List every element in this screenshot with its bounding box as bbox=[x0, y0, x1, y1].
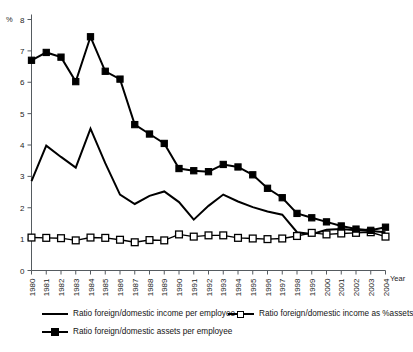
data-point-marker bbox=[87, 34, 93, 40]
x-tick-label: 2001 bbox=[337, 278, 346, 296]
y-tick-label: 0 bbox=[20, 267, 25, 276]
series-line bbox=[32, 37, 386, 231]
data-point-marker bbox=[176, 165, 182, 171]
data-point-marker bbox=[323, 231, 330, 238]
x-tick-label: 1983 bbox=[72, 278, 81, 296]
data-point-marker bbox=[220, 232, 227, 239]
x-tick-label: 2002 bbox=[352, 278, 361, 296]
x-tick-label: 1986 bbox=[116, 278, 125, 296]
data-point-marker bbox=[294, 233, 301, 240]
series-3 bbox=[28, 34, 388, 234]
x-tick-label: 1990 bbox=[175, 278, 184, 296]
data-point-marker bbox=[176, 231, 183, 238]
data-point-marker bbox=[132, 122, 138, 128]
data-point-marker bbox=[353, 226, 359, 232]
data-point-marker bbox=[87, 234, 94, 241]
data-point-marker bbox=[58, 235, 65, 242]
y-axis-unit-label: % bbox=[6, 15, 13, 24]
series-2 bbox=[28, 229, 389, 246]
data-point-marker bbox=[250, 172, 256, 178]
y-tick-label: 7 bbox=[20, 47, 25, 56]
x-tick-label: 1995 bbox=[249, 278, 258, 296]
x-tick-label: 1993 bbox=[219, 278, 228, 296]
data-point-marker bbox=[249, 235, 256, 242]
data-point-marker bbox=[264, 236, 271, 243]
chart-legend: Ratio foreign/domestic income per employ… bbox=[0, 304, 412, 352]
data-point-marker bbox=[323, 219, 329, 225]
legend-item-income-per-employee: Ratio foreign/domestic income per employ… bbox=[42, 308, 235, 320]
data-point-marker bbox=[146, 237, 153, 244]
series-line bbox=[32, 129, 386, 234]
x-tick-label: 1987 bbox=[131, 278, 140, 296]
legend-label-income-as-pct-assets: Ratio foreign/domestic income as %assets bbox=[259, 310, 413, 318]
data-point-marker bbox=[43, 234, 50, 241]
data-point-marker bbox=[28, 57, 34, 63]
x-tick-label: 1996 bbox=[264, 278, 273, 296]
legend-label-assets-per-employee: Ratio foreign/domestic assets per employ… bbox=[73, 328, 232, 336]
data-point-marker bbox=[28, 234, 35, 241]
legend-swatch-line-icon bbox=[42, 308, 68, 320]
data-point-marker bbox=[235, 164, 241, 170]
data-point-marker bbox=[131, 239, 138, 246]
data-point-marker bbox=[102, 68, 108, 74]
data-point-marker bbox=[264, 185, 270, 191]
x-tick-label: 1989 bbox=[160, 278, 169, 296]
data-point-marker bbox=[279, 195, 285, 201]
data-point-marker bbox=[309, 215, 315, 221]
legend-swatch-filled-square-icon bbox=[42, 326, 68, 338]
data-point-marker bbox=[382, 233, 389, 240]
data-point-marker bbox=[161, 140, 167, 146]
data-point-marker bbox=[117, 236, 124, 243]
x-tick-label: 1984 bbox=[87, 278, 96, 296]
series-layer bbox=[28, 34, 389, 246]
x-tick-label: 1988 bbox=[146, 278, 155, 296]
data-point-marker bbox=[368, 227, 374, 233]
data-point-marker bbox=[294, 210, 300, 216]
data-point-marker bbox=[308, 229, 315, 236]
x-tick-label: 1982 bbox=[57, 278, 66, 296]
data-point-marker bbox=[220, 161, 226, 167]
legend-label-income-per-employee: Ratio foreign/domestic income per employ… bbox=[73, 310, 235, 318]
data-point-marker bbox=[382, 224, 388, 230]
data-point-marker bbox=[338, 230, 345, 237]
legend-item-income-as-pct-assets: Ratio foreign/domestic income as %assets bbox=[228, 308, 413, 320]
y-tick-label: 3 bbox=[20, 172, 25, 181]
data-point-marker bbox=[235, 234, 242, 241]
x-tick-label: 1997 bbox=[278, 278, 287, 296]
x-tick-label: 1992 bbox=[205, 278, 214, 296]
data-point-marker bbox=[161, 237, 168, 244]
x-tick-label: 1999 bbox=[308, 278, 317, 296]
x-tick-label: 1985 bbox=[101, 278, 110, 296]
data-point-marker bbox=[117, 76, 123, 82]
series-1 bbox=[32, 129, 386, 234]
data-point-marker bbox=[72, 237, 79, 244]
y-tick-label: 2 bbox=[20, 204, 25, 213]
y-tick-label: 8 bbox=[20, 16, 25, 25]
data-point-marker bbox=[338, 223, 344, 229]
data-point-marker bbox=[205, 169, 211, 175]
data-point-marker bbox=[205, 232, 212, 239]
data-point-marker bbox=[146, 131, 152, 137]
x-tick-label: 2000 bbox=[323, 278, 332, 296]
x-tick-label: 1980 bbox=[28, 278, 37, 296]
y-tick-label: 6 bbox=[20, 78, 25, 87]
data-point-marker bbox=[73, 79, 79, 85]
legend-item-assets-per-employee: Ratio foreign/domestic assets per employ… bbox=[42, 326, 232, 338]
y-tick-label: 1 bbox=[20, 235, 25, 244]
y-tick-label: 5 bbox=[20, 110, 25, 119]
data-point-marker bbox=[279, 235, 286, 242]
data-point-marker bbox=[191, 168, 197, 174]
x-tick-label: 1994 bbox=[234, 278, 243, 296]
x-tick-label: 2003 bbox=[367, 278, 376, 296]
legend-swatch-open-square-icon bbox=[228, 308, 254, 320]
x-axis-title: Year bbox=[390, 274, 406, 283]
x-tick-label: 1981 bbox=[42, 278, 51, 296]
data-point-marker bbox=[58, 54, 64, 60]
x-tick-label: 1991 bbox=[190, 278, 199, 296]
x-axis: 1980198119821983198419851986198719881989… bbox=[28, 271, 391, 297]
data-point-marker bbox=[190, 233, 197, 240]
y-tick-label: 4 bbox=[20, 141, 25, 150]
x-tick-label: 1998 bbox=[293, 278, 302, 296]
